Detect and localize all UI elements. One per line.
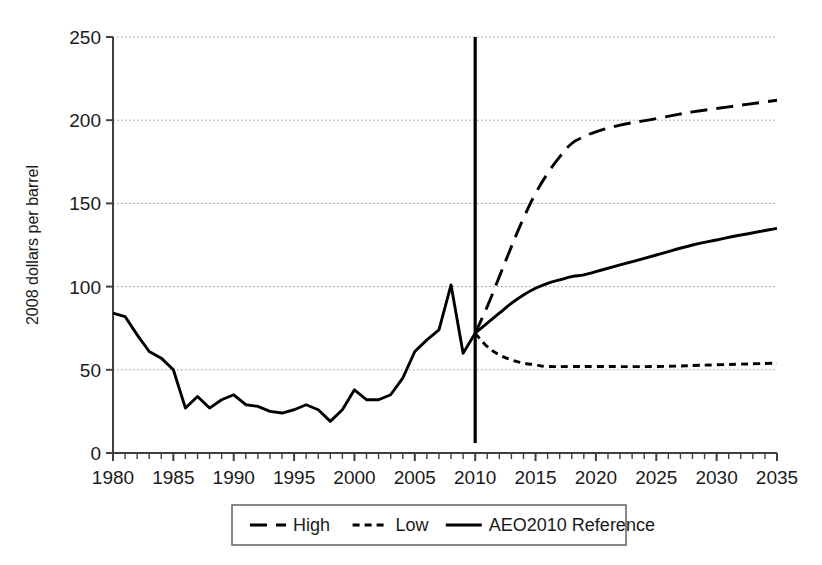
x-tick-label: 1985 <box>152 467 194 488</box>
legend-label: High <box>293 515 330 535</box>
x-tick-label: 1980 <box>92 467 134 488</box>
series-line-aeo2010-reference <box>475 228 777 333</box>
x-tick-label: 2020 <box>575 467 617 488</box>
y-tick-label: 0 <box>90 443 101 464</box>
x-tick-label: 1990 <box>213 467 255 488</box>
oil-price-line-chart: 2008 dollars per barrel 050100150200250 … <box>0 0 822 565</box>
y-tick-label: 150 <box>69 193 101 214</box>
series-line-low <box>475 333 777 366</box>
y-tick-label: 200 <box>69 110 101 131</box>
x-axis-tick-labels: 1980198519901995200020052010201520202025… <box>92 467 798 488</box>
x-tick-label: 2000 <box>333 467 375 488</box>
chart-legend: HighLowAEO2010 Reference <box>232 505 655 545</box>
x-tick-label: 2030 <box>695 467 737 488</box>
x-tick-label: 2025 <box>635 467 677 488</box>
x-tick-label: 1995 <box>273 467 315 488</box>
series-line-history <box>113 285 475 421</box>
legend-label: AEO2010 Reference <box>489 515 655 535</box>
chart-figure: 2008 dollars per barrel 050100150200250 … <box>0 0 822 565</box>
data-series-group <box>113 100 777 421</box>
legend-label: Low <box>396 515 430 535</box>
y-axis-title: 2008 dollars per barrel <box>24 165 41 325</box>
y-tick-label: 250 <box>69 27 101 48</box>
gridlines <box>113 37 777 370</box>
y-tick-label: 100 <box>69 277 101 298</box>
x-tick-label: 2015 <box>514 467 556 488</box>
x-tick-label: 2010 <box>454 467 496 488</box>
x-tick-label: 2005 <box>394 467 436 488</box>
y-axis-tick-labels: 050100150200250 <box>69 27 101 464</box>
x-axis <box>113 453 777 461</box>
y-tick-label: 50 <box>80 360 101 381</box>
x-tick-label: 2035 <box>756 467 798 488</box>
y-axis <box>106 37 113 453</box>
